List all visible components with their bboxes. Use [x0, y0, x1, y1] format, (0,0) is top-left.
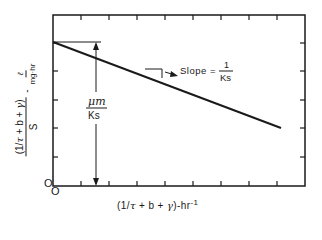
y-label-separator: -	[21, 87, 32, 96]
intercept-denominator: Ks	[88, 111, 100, 121]
intercept-numerator: μm	[88, 96, 106, 107]
x-axis-label: (1/τ + b + γ)-hr-1	[117, 199, 198, 211]
y-label-main-fraction: (1/τ + b + γ) S	[14, 97, 39, 156]
y-axis-label: (1/τ + b + γ) S - ℓ mg·hr	[6, 40, 46, 180]
slope-arrow-icon	[170, 71, 178, 77]
slope-numerator: 1	[224, 61, 229, 70]
slope-label: Slope =	[180, 66, 216, 76]
slope-denominator: Ks	[220, 73, 231, 83]
x-origin-label: O	[51, 186, 60, 197]
y-label-unit-fraction: ℓ mg·hr	[16, 64, 37, 85]
arrow-down-icon	[93, 178, 99, 186]
arrow-up-icon	[93, 42, 99, 50]
